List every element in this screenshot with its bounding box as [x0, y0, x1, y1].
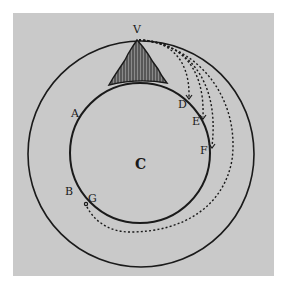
label-d: D [178, 98, 187, 111]
label-f: F [200, 144, 208, 157]
label-g: G [88, 192, 97, 205]
label-b: B [65, 185, 73, 198]
label-e: E [192, 115, 200, 128]
label-c: C [135, 156, 146, 172]
label-a: A [70, 107, 80, 120]
trajectory-g [86, 40, 233, 232]
label-v: V [132, 23, 142, 36]
cannonball-diagram: V A B C D E F G [0, 0, 284, 288]
